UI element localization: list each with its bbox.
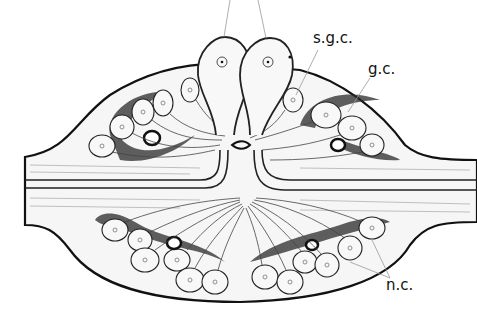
ganglion-diagram: s.g.c. g.c. n.c. [0,0,477,335]
label-nc: n.c. [386,276,413,294]
label-gc: g.c. [368,60,395,78]
label-sgc: s.g.c. [313,29,353,47]
